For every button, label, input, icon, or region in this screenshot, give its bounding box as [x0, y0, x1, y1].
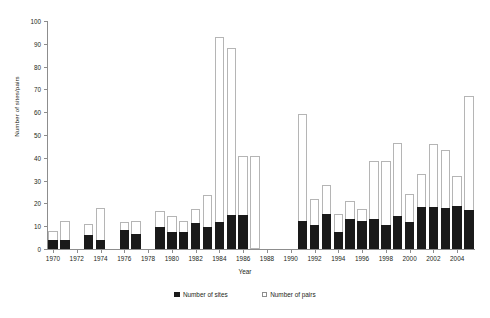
- x-tick: [101, 249, 102, 253]
- bar-sites: [167, 232, 177, 249]
- bar-group: [429, 21, 439, 249]
- x-tick: [338, 249, 339, 253]
- y-tick-label: 20: [34, 200, 41, 207]
- y-tick-label: 0: [37, 246, 41, 253]
- bar-sites: [120, 230, 130, 249]
- bar-sites: [464, 210, 474, 249]
- bar-group: [310, 21, 320, 249]
- x-tick: [267, 249, 268, 253]
- bar-group: [417, 21, 427, 249]
- y-tick-label: 50: [34, 132, 41, 139]
- x-tick-label: 1988: [260, 255, 274, 262]
- bar-sites: [60, 240, 70, 249]
- bar-group: [369, 21, 379, 249]
- bar-group: [393, 21, 403, 249]
- bar-group: [60, 21, 70, 249]
- x-tick-label: 1986: [236, 255, 250, 262]
- legend-swatch-pairs-icon: [262, 292, 268, 298]
- x-tick-label: 2000: [403, 255, 417, 262]
- bar-group: [464, 21, 474, 249]
- bar-sites: [191, 223, 201, 249]
- x-tick: [77, 249, 78, 253]
- bar-group: [452, 21, 462, 249]
- bar-sites: [393, 216, 403, 249]
- x-tick: [219, 249, 220, 253]
- x-tick-label: 1996: [355, 255, 369, 262]
- bar-group: [322, 21, 332, 249]
- x-tick: [196, 249, 197, 253]
- bar-sites: [131, 234, 141, 249]
- bar-chart: Number of sites/pairs Year 0102030405060…: [0, 0, 490, 318]
- y-tick-label: 30: [34, 177, 41, 184]
- x-tick-label: 2002: [426, 255, 440, 262]
- x-tick-label: 1982: [189, 255, 203, 262]
- bar-group: [381, 21, 391, 249]
- bar-group: [120, 21, 130, 249]
- bar-pairs: [215, 37, 225, 249]
- bar-group: [215, 21, 225, 249]
- x-axis-line: [47, 249, 475, 250]
- bar-group: [167, 21, 177, 249]
- x-axis-title: Year: [0, 268, 490, 275]
- x-tick: [172, 249, 173, 253]
- bar-group: [191, 21, 201, 249]
- bar-group: [96, 21, 106, 249]
- bar-sites: [96, 240, 106, 249]
- y-tick-label: 10: [34, 223, 41, 230]
- chart-legend: Number of sites Number of pairs: [0, 291, 490, 298]
- bar-sites: [345, 219, 355, 249]
- x-tick: [433, 249, 434, 253]
- y-tick-label: 40: [34, 154, 41, 161]
- y-tick-label: 90: [34, 40, 41, 47]
- bar-group: [441, 21, 451, 249]
- bar-group: [155, 21, 165, 249]
- bar-sites: [357, 221, 367, 250]
- legend-label-sites: Number of sites: [183, 291, 228, 298]
- bar-sites: [369, 219, 379, 249]
- bar-sites: [179, 232, 189, 249]
- bar-sites: [381, 225, 391, 249]
- x-tick: [124, 249, 125, 253]
- y-tick-label: 80: [34, 63, 41, 70]
- bar-sites: [48, 240, 58, 249]
- legend-item-sites: Number of sites: [174, 291, 227, 298]
- y-tick: [44, 249, 48, 250]
- bar-group: [227, 21, 237, 249]
- bar-group: [357, 21, 367, 249]
- x-tick-label: 1970: [46, 255, 60, 262]
- x-tick-label: 2004: [450, 255, 464, 262]
- bar-sites: [334, 232, 344, 249]
- x-tick: [457, 249, 458, 253]
- bar-sites: [310, 225, 320, 249]
- x-tick: [243, 249, 244, 253]
- legend-label-pairs: Number of pairs: [270, 291, 315, 298]
- bar-sites: [84, 235, 94, 249]
- x-tick-label: 1976: [117, 255, 131, 262]
- bar-sites: [215, 222, 225, 249]
- bar-group: [48, 21, 58, 249]
- x-tick-label: 1990: [284, 255, 298, 262]
- y-tick-label: 70: [34, 86, 41, 93]
- bar-sites: [405, 222, 415, 249]
- bar-sites: [322, 214, 332, 249]
- bar-group: [203, 21, 213, 249]
- bar-sites: [227, 215, 237, 249]
- x-tick-label: 1992: [307, 255, 321, 262]
- bar-sites: [203, 227, 213, 249]
- x-tick: [291, 249, 292, 253]
- bar-group: [131, 21, 141, 249]
- y-axis-title: Number of sites/pairs: [13, 47, 20, 167]
- bar-sites: [429, 207, 439, 249]
- x-tick: [362, 249, 363, 253]
- bar-group: [179, 21, 189, 249]
- bar-sites: [155, 227, 165, 249]
- bar-sites: [238, 215, 248, 249]
- x-tick-label: 1974: [93, 255, 107, 262]
- bar-sites: [452, 206, 462, 249]
- x-tick: [410, 249, 411, 253]
- legend-item-pairs: Number of pairs: [262, 291, 316, 298]
- bar-group: [345, 21, 355, 249]
- bar-group: [250, 21, 260, 249]
- bar-sites: [298, 221, 308, 250]
- x-tick: [53, 249, 54, 253]
